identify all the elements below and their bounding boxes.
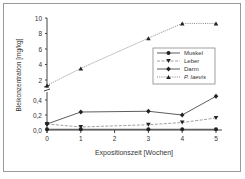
data-point-darm bbox=[79, 110, 84, 115]
legend-label-darm: Darm bbox=[184, 66, 199, 72]
y-axis-label: Bleikonzentration [mg/kg] bbox=[15, 38, 23, 111]
data-point-muskel bbox=[180, 127, 184, 131]
data-point-darm bbox=[180, 113, 185, 118]
x-tick-label: 1 bbox=[79, 135, 83, 142]
y-tick-label: 2 bbox=[38, 77, 42, 84]
x-tick-label: 4 bbox=[180, 135, 184, 142]
y-tick-label: 8 bbox=[38, 30, 42, 37]
series-line-darm bbox=[47, 96, 216, 124]
data-point-p-laevis bbox=[146, 36, 151, 40]
data-point-p-laevis bbox=[79, 66, 84, 70]
legend-label-p-laevis: P. laevis bbox=[184, 74, 206, 80]
x-tick-label: 0 bbox=[45, 135, 49, 142]
x-axis-label: Expositionszeit [Wochen] bbox=[95, 149, 173, 157]
line-chart: 2468100,00,20,4012345Expositionszeit [Wo… bbox=[0, 0, 245, 179]
data-point-muskel bbox=[214, 127, 218, 131]
y-tick-label: 10 bbox=[35, 15, 43, 22]
legend-marker-muskel bbox=[167, 51, 171, 55]
x-tick-label: 3 bbox=[147, 135, 151, 142]
y-tick-label: 0,4 bbox=[33, 97, 42, 104]
legend-label-leber: Leber bbox=[184, 58, 199, 64]
axis-break-mark bbox=[44, 89, 50, 91]
data-point-muskel bbox=[146, 127, 150, 131]
data-point-darm bbox=[214, 94, 219, 99]
series-line-leber bbox=[47, 118, 216, 127]
x-tick-label: 2 bbox=[113, 135, 117, 142]
data-point-muskel bbox=[45, 127, 49, 131]
legend-label-muskel: Muskel bbox=[184, 50, 203, 56]
y-tick-label: 6 bbox=[38, 46, 42, 53]
y-tick-label: 0,0 bbox=[33, 127, 42, 134]
data-point-darm bbox=[146, 109, 151, 114]
x-tick-label: 5 bbox=[214, 135, 218, 142]
y-tick-label: 4 bbox=[38, 61, 42, 68]
y-tick-label: 0,2 bbox=[33, 112, 42, 119]
